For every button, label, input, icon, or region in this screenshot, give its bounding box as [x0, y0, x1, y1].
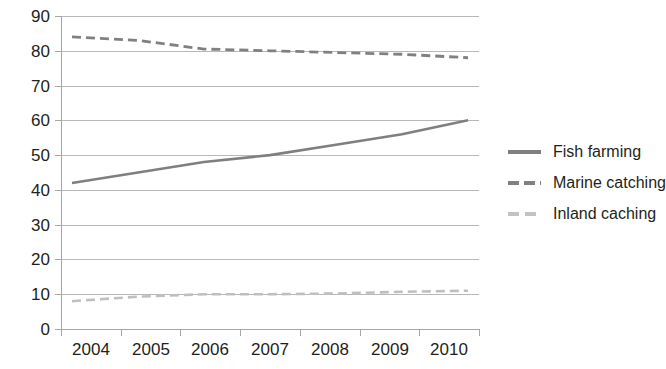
- chart-legend: Fish farming Marine catching Inland cach…: [508, 141, 648, 234]
- legend-item-fish-farming: Fish farming: [508, 141, 648, 172]
- series-line-inland-caching: [72, 291, 468, 301]
- legend-label-fish-farming: Fish farming: [553, 141, 641, 163]
- light-dashed-line-swatch: [508, 212, 541, 216]
- series-line-marine-catching: [72, 37, 468, 58]
- dashed-line-swatch: [508, 181, 541, 185]
- series-line-fish-farming: [72, 120, 468, 183]
- legend-item-marine-catching: Marine catching: [508, 172, 648, 203]
- solid-line-swatch: [508, 150, 541, 154]
- legend-label-inland-caching: Inland caching: [553, 203, 656, 225]
- legend-label-marine-catching: Marine catching: [553, 172, 666, 194]
- legend-item-inland-caching: Inland caching: [508, 203, 648, 234]
